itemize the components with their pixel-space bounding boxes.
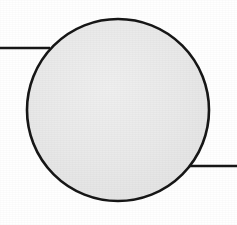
figure-canvas [0,0,237,225]
shaded-circle [27,19,209,201]
figure-drawing [0,0,237,225]
